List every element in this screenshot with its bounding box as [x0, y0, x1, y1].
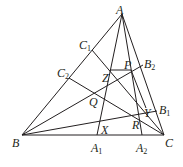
label-Y: Y: [144, 107, 151, 119]
label-A: A: [116, 4, 123, 16]
label-Z: Z: [102, 72, 109, 84]
label-A1: A1: [91, 142, 102, 156]
label-C2: C2: [57, 67, 69, 81]
geometry-diagram: ABCA1A2B1B2C1C2PZQXYR: [0, 0, 183, 167]
label-C: C: [165, 137, 173, 149]
label-B2: B2: [144, 58, 155, 72]
segment-C-A: [122, 14, 164, 135]
label-R: R: [132, 119, 139, 131]
label-X: X: [101, 124, 108, 136]
label-A2: A2: [136, 142, 147, 156]
label-P: P: [124, 59, 131, 71]
label-B: B: [12, 137, 19, 149]
segment-A-A1: [97, 14, 122, 135]
label-B1: B1: [159, 104, 170, 118]
label-C1: C1: [79, 39, 91, 53]
label-Q: Q: [89, 96, 98, 108]
